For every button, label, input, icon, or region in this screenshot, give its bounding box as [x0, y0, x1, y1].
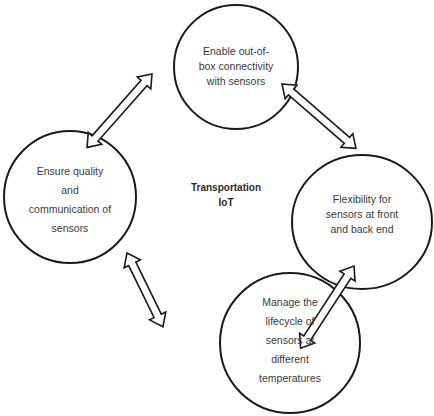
double-arrow-top-left [80, 68, 158, 153]
center-title-line-2: IoT [176, 195, 276, 210]
node-bottom-line-5: temperatures [259, 369, 321, 388]
node-right-line-2: sensors at front [326, 207, 398, 222]
node-top-line-3: with sensors [199, 74, 274, 89]
node-right: Flexibility for sensors at front and bac… [300, 180, 424, 248]
node-bottom-line-2: lifecycle of [259, 312, 321, 331]
node-left-line-3: communication of [29, 200, 111, 219]
node-top: Enable out-of- box connectivity with sen… [180, 30, 292, 102]
node-left-line-4: sensors [29, 219, 111, 238]
double-arrow-left-bottom [119, 249, 171, 331]
node-bottom-line-3: sensors at [259, 331, 321, 350]
node-left-line-2: and [29, 181, 111, 200]
node-bottom: Manage the lifecycle of sensors at diffe… [224, 290, 356, 390]
center-title: Transportation IoT [176, 180, 276, 210]
node-bottom-line-4: different [259, 350, 321, 369]
node-top-line-2: box connectivity [199, 59, 274, 74]
node-left: Ensure quality and communication of sens… [10, 160, 130, 240]
node-left-line-1: Ensure quality [29, 162, 111, 181]
node-right-line-3: and back end [326, 222, 398, 237]
node-right-line-1: Flexibility for [326, 192, 398, 207]
center-title-line-1: Transportation [176, 180, 276, 195]
node-top-line-1: Enable out-of- [199, 44, 274, 59]
node-bottom-line-1: Manage the [259, 293, 321, 312]
